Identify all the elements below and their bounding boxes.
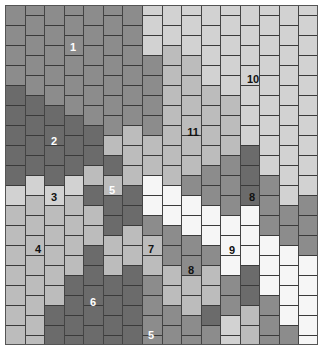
grid-cell (241, 26, 260, 46)
grid-column (221, 6, 241, 345)
grid-cell (299, 196, 318, 216)
grid-cell (6, 206, 25, 226)
grid-cell (182, 76, 201, 96)
region-label: 9 (229, 245, 235, 256)
grid-cell (280, 246, 299, 266)
grid-cell (143, 16, 162, 36)
grid-cell (202, 246, 221, 266)
region-label: 8 (188, 265, 194, 276)
grid-cell (163, 186, 182, 206)
grid-cell (123, 186, 142, 206)
grid-cell (299, 276, 318, 296)
grid-cell (260, 276, 279, 296)
region-label: 3 (51, 192, 57, 203)
grid-cell (280, 46, 299, 66)
grid-column (260, 6, 280, 345)
grid-cell (182, 196, 201, 216)
grid-cell (104, 16, 123, 36)
grid-cell (65, 136, 84, 156)
grid-cell (123, 326, 142, 345)
grid-cell (202, 66, 221, 86)
grid-column (241, 6, 261, 345)
grid-cell (280, 226, 299, 246)
grid-column (45, 6, 65, 345)
grid-cell (299, 316, 318, 336)
grid-cell (299, 236, 318, 256)
grid-cell (299, 6, 318, 16)
grid-cell (45, 86, 64, 106)
region-label: 8 (249, 192, 255, 203)
grid-column (65, 6, 85, 345)
grid-cell (163, 146, 182, 166)
grid-cell (84, 86, 103, 106)
grid-cell (241, 326, 260, 345)
grid-cell (65, 336, 84, 345)
grid-cell (84, 126, 103, 146)
grid-cell (104, 256, 123, 276)
grid-cell (84, 206, 103, 226)
grid-cell (143, 116, 162, 136)
grid-cell (26, 76, 45, 96)
grid-cell (123, 126, 142, 146)
grid-cell (202, 206, 221, 226)
grid-cell (260, 296, 279, 316)
grid-cell (280, 166, 299, 186)
grid-cell (65, 316, 84, 336)
grid-cell (260, 156, 279, 176)
grid-column (202, 6, 222, 345)
grid-cell (202, 306, 221, 326)
grid-cell (65, 256, 84, 276)
grid-cell (45, 246, 64, 266)
grid-cell (104, 236, 123, 256)
grid-cell (143, 216, 162, 236)
grid-cell (202, 226, 221, 246)
grid-cell (45, 6, 64, 26)
grid-cell (241, 146, 260, 166)
grid-cell (26, 316, 45, 336)
grid-cell (241, 246, 260, 266)
grid-cell (6, 26, 25, 46)
grid-cell (280, 106, 299, 126)
grid-cell (65, 16, 84, 36)
grid-cell (202, 26, 221, 46)
grid-cell (299, 56, 318, 76)
region-label: 5 (148, 330, 154, 341)
grid-cell (143, 136, 162, 156)
grid-cell (143, 56, 162, 76)
grid-cell (260, 36, 279, 56)
grid-cell (6, 146, 25, 166)
grid-cell (260, 6, 279, 16)
grid-cell (6, 46, 25, 66)
grid-cell (104, 316, 123, 336)
grid-cell (45, 326, 64, 345)
grid-cell (260, 316, 279, 336)
grid-cell (221, 256, 240, 276)
grid-cell (182, 16, 201, 36)
grid-cell (104, 36, 123, 56)
grid-cell (260, 136, 279, 156)
grid-cell (6, 86, 25, 106)
grid-cell (104, 136, 123, 156)
grid-cell (163, 6, 182, 26)
grid-cell (299, 96, 318, 116)
grid-cell (6, 6, 25, 26)
grid-cell (104, 116, 123, 136)
grid-cell (241, 46, 260, 66)
grid-cell (182, 336, 201, 345)
grid-cell (260, 196, 279, 216)
grid-cell (84, 146, 103, 166)
grid-cell (221, 96, 240, 116)
brick-grid-map (5, 5, 318, 345)
grid-cell (299, 16, 318, 36)
grid-cell (163, 226, 182, 246)
grid-cell (163, 26, 182, 46)
grid-cell (104, 196, 123, 216)
grid-cell (182, 316, 201, 336)
grid-cell (182, 6, 201, 16)
grid-cell (260, 116, 279, 136)
region-label: 11 (187, 127, 199, 138)
grid-cell (104, 336, 123, 345)
grid-cell (45, 286, 64, 306)
grid-cell (202, 266, 221, 286)
grid-cell (221, 56, 240, 76)
